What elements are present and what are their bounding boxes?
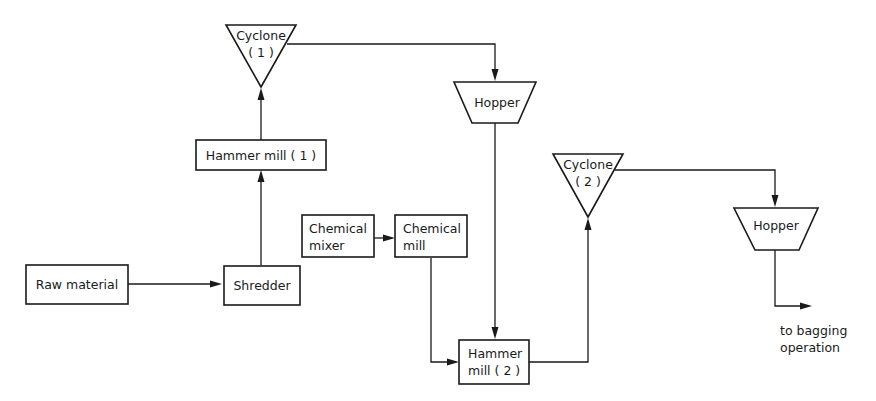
node-cyclone-1: Cyclone ( 1 ) bbox=[226, 25, 296, 87]
hopper-1-label: Hopper bbox=[474, 95, 521, 110]
cyclone-1-label-line1: Cyclone bbox=[236, 28, 286, 43]
cyclone-2-label-line1: Cyclone bbox=[563, 157, 613, 172]
arrowhead-icon bbox=[772, 195, 779, 207]
shredder-label: Shredder bbox=[233, 278, 291, 293]
node-chemical-mill: Chemical mill bbox=[395, 215, 467, 257]
node-raw-material: Raw material bbox=[26, 265, 128, 304]
arrowhead-icon bbox=[210, 281, 222, 288]
cyclone-2-label-line2: ( 2 ) bbox=[575, 174, 601, 189]
edge-cyclone-2-to-hopper-2 bbox=[615, 170, 775, 200]
edge-cyclone-1-to-hopper-1 bbox=[287, 44, 495, 75]
arrowhead-icon bbox=[492, 69, 499, 81]
bagging-label-line1: to bagging bbox=[780, 323, 847, 338]
edge-hammer-mill-2-to-cyclone-2 bbox=[529, 226, 588, 362]
arrowhead-icon bbox=[800, 303, 812, 310]
chemical-mixer-label-line1: Chemical bbox=[309, 221, 367, 236]
chemical-mill-label-line1: Chemical bbox=[403, 221, 461, 236]
arrowhead-icon bbox=[383, 235, 395, 242]
bagging-label-line2: operation bbox=[780, 340, 840, 355]
arrowhead-icon bbox=[585, 218, 592, 230]
node-chemical-mixer: Chemical mixer bbox=[302, 215, 374, 257]
hammer-mill-1-label: Hammer mill ( 1 ) bbox=[206, 148, 316, 163]
node-bagging-output: to bagging operation bbox=[780, 323, 847, 355]
cyclone-1-label-line2: ( 1 ) bbox=[248, 45, 274, 60]
chemical-mill-label-line2: mill bbox=[403, 238, 426, 253]
node-hopper-2: Hopper bbox=[734, 208, 818, 250]
arrowhead-icon bbox=[258, 88, 265, 100]
node-shredder: Shredder bbox=[224, 266, 300, 305]
node-hammer-mill-1: Hammer mill ( 1 ) bbox=[196, 140, 326, 170]
node-cyclone-2: Cyclone ( 2 ) bbox=[553, 154, 623, 217]
hopper-2-label: Hopper bbox=[753, 218, 800, 233]
process-flow-diagram: Raw material Shredder Hammer mill ( 1 ) … bbox=[0, 0, 876, 401]
arrowhead-icon bbox=[447, 359, 459, 366]
arrowhead-icon bbox=[258, 170, 265, 182]
edge-chemical-mill-to-hammer-mill-2 bbox=[431, 258, 451, 362]
edge-hopper-2-to-bagging bbox=[775, 250, 804, 306]
chemical-mixer-label-line2: mixer bbox=[309, 238, 345, 253]
hammer-mill-2-label-line2: mill ( 2 ) bbox=[468, 363, 520, 378]
arrowhead-icon bbox=[492, 327, 499, 339]
node-hammer-mill-2: Hammer mill ( 2 ) bbox=[459, 340, 529, 384]
raw-material-label: Raw material bbox=[36, 277, 118, 292]
hammer-mill-2-label-line1: Hammer bbox=[468, 346, 523, 361]
node-hopper-1: Hopper bbox=[454, 82, 536, 123]
